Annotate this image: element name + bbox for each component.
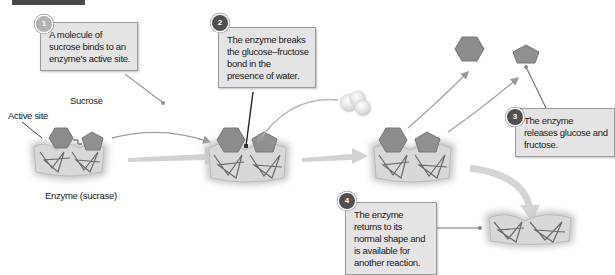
step-1-callout: A molecule of sucrose binds to an enzyme…	[40, 22, 138, 71]
water-molecule	[340, 91, 371, 116]
step-2-text: The enzyme breaks the glucose–fructose b…	[227, 34, 309, 81]
active-site-pointer	[22, 122, 42, 138]
glucose-molecule	[455, 37, 484, 61]
enzyme-3	[370, 128, 455, 185]
sucrose-label: Sucrose	[70, 95, 103, 106]
step-1-badge: 1	[36, 16, 52, 32]
step-4-badge: 4	[339, 193, 355, 209]
fructose-molecule	[513, 45, 539, 63]
active-site-label: Active site	[8, 110, 48, 121]
enzyme-4	[485, 211, 575, 248]
step-4-callout: The enzyme returns to its normal shape a…	[345, 202, 437, 275]
enzyme-label: Enzyme (sucrase)	[45, 190, 117, 201]
step-3-text: The enzyme releases glucose and fructose…	[524, 115, 608, 150]
process-arrow-3	[470, 168, 530, 210]
step-1-text: A molecule of sucrose binds to an enzyme…	[49, 29, 130, 64]
callout3-pointer	[526, 67, 548, 112]
step-2-badge: 2	[212, 15, 228, 31]
step-2-callout: The enzyme breaks the glucose–fructose b…	[218, 27, 316, 88]
callout1-pointer	[125, 74, 162, 102]
step-4-text: The enzyme returns to its normal shape a…	[354, 209, 425, 268]
callout2-pointer	[246, 92, 253, 146]
process-arrow-2	[302, 148, 368, 164]
step-3-callout: The enzyme releases glucose and fructose…	[515, 108, 615, 157]
step-3-badge: 3	[507, 109, 523, 125]
